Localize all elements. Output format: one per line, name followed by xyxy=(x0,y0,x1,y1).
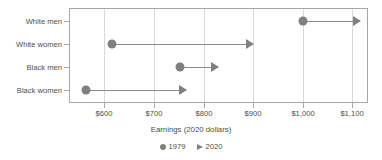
legend-item-2020: 2020 xyxy=(197,142,223,151)
y-axis-tick xyxy=(64,21,69,22)
legend: 1979 2020 xyxy=(0,142,382,151)
x-axis-ticklabel-900: $900 xyxy=(245,110,262,118)
y-axis-label-black-men: Black men xyxy=(0,64,62,72)
marker-1979-white-men xyxy=(299,17,308,26)
marker-2020-white-women xyxy=(246,39,254,49)
gridline-900 xyxy=(253,9,254,102)
x-axis-tick xyxy=(204,103,205,108)
x-axis-tick xyxy=(352,103,353,108)
x-axis-ticklabel-800: $800 xyxy=(196,110,213,118)
marker-2020-black-men xyxy=(211,62,219,72)
y-axis-label-black-women: Black women xyxy=(0,87,62,95)
y-axis-tick xyxy=(64,90,69,91)
legend-item-1979: 1979 xyxy=(160,142,186,151)
marker-2020-black-women xyxy=(179,85,187,95)
y-axis-tick xyxy=(64,67,69,68)
gridline-700 xyxy=(154,9,155,102)
marker-2020-white-men xyxy=(353,16,361,26)
y-axis-tick xyxy=(64,44,69,45)
x-axis-tick xyxy=(253,103,254,108)
legend-label-2020: 2020 xyxy=(206,142,223,151)
dumbbell-chart: White men White women Black men Black wo… xyxy=(0,0,382,160)
connector-black-women xyxy=(86,90,186,91)
x-axis-tick xyxy=(154,103,155,108)
gridline-800 xyxy=(204,9,205,102)
x-axis-ticklabel-600: $600 xyxy=(96,110,113,118)
legend-label-1979: 1979 xyxy=(169,142,186,151)
x-axis-tick xyxy=(303,103,304,108)
marker-1979-black-men xyxy=(176,63,185,72)
gridline-600 xyxy=(104,9,105,102)
cropped-title-remnant xyxy=(0,0,382,4)
x-axis-ticklabel-1000: $1,000 xyxy=(291,110,314,118)
circle-marker-icon xyxy=(160,144,166,150)
x-axis-tick xyxy=(104,103,105,108)
y-axis-label-white-women: White women xyxy=(0,41,62,49)
x-axis-ticklabel-700: $700 xyxy=(146,110,163,118)
connector-white-men xyxy=(303,21,360,22)
marker-1979-black-women xyxy=(82,86,91,95)
y-axis-label-white-men: White men xyxy=(0,18,62,26)
plot-area xyxy=(69,8,368,103)
marker-1979-white-women xyxy=(108,40,117,49)
connector-white-women xyxy=(112,44,253,45)
triangle-marker-icon xyxy=(197,144,203,150)
x-axis-title: Earnings (2020 dollars) xyxy=(0,125,382,134)
x-axis-ticklabel-1100: $1,100 xyxy=(340,110,363,118)
